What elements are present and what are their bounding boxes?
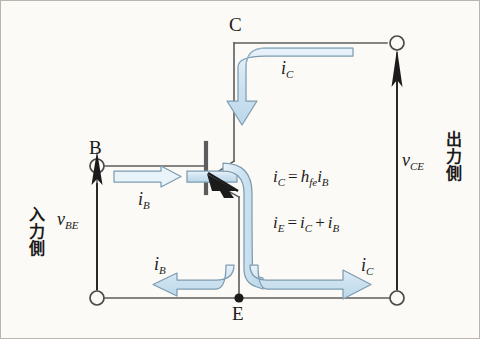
terminal-node-collector (390, 36, 404, 50)
eq-ic-lhs-sub: C (278, 176, 285, 188)
current-ic-top-sub: C (286, 68, 293, 80)
voltage-vbe-base: v (57, 209, 65, 229)
circuit-diagram-canvas: C B E 入力側 出力側 vBE vCE iC iB iB iC iC=hfe… (0, 0, 480, 339)
current-label-ib-out: iB (154, 255, 166, 276)
eq-ic-rhs-sub: B (322, 176, 329, 188)
current-label-ic-top: iC (281, 59, 293, 80)
equation-collector-current: iC=hfeiB (273, 168, 329, 188)
current-ib-in-sub: B (143, 199, 150, 211)
voltage-vbe-sub: BE (65, 219, 78, 231)
voltage-arrow-vce (392, 49, 403, 290)
current-ib-out-sub: B (159, 264, 166, 276)
eq-ic-operator: = (288, 167, 298, 186)
current-flow-collector-return (250, 265, 371, 299)
voltage-vce-base: v (402, 150, 410, 170)
current-label-ic-bottom: iC (361, 256, 373, 277)
eq-ie-t2-sub: B (332, 222, 339, 234)
voltage-vce-sub: CE (410, 160, 424, 172)
eq-ie-lhs-sub: E (278, 222, 285, 234)
equation-emitter-current: iE=iC+iB (273, 214, 339, 234)
current-ic-bottom-sub: C (366, 265, 373, 277)
eq-ic-gain-sub: fe (309, 176, 317, 188)
terminal-label-emitter: E (232, 304, 244, 323)
voltage-label-vbe: vBE (57, 210, 78, 231)
current-label-ib-in: iB (138, 190, 150, 211)
eq-ie-t1-sub: C (305, 222, 312, 234)
eq-ie-plus: + (315, 213, 325, 232)
terminal-label-base: B (89, 138, 102, 157)
junction-node-emitter (234, 293, 243, 302)
side-label-output: 出力側 (444, 131, 461, 182)
voltage-label-vce: vCE (402, 151, 424, 172)
terminal-label-collector: C (229, 15, 242, 34)
eq-ie-operator: = (287, 213, 297, 232)
terminal-node-input-return (90, 291, 104, 305)
terminal-node-output-return (390, 291, 404, 305)
eq-ic-gain-base: h (301, 167, 310, 186)
side-label-input: 入力側 (27, 206, 44, 257)
